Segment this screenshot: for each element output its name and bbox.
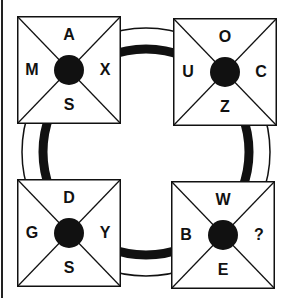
letter-top: D — [59, 189, 79, 207]
letter-right: X — [95, 61, 115, 79]
puzzle-box-bottom-left: D G Y S — [17, 179, 121, 287]
letter-bottom: E — [213, 261, 233, 279]
letter-top: W — [213, 191, 233, 209]
letter-top: O — [215, 28, 235, 46]
letter-top: A — [59, 26, 79, 44]
puzzle-box-bottom-right: W B ? E — [171, 181, 275, 289]
letter-left: U — [178, 63, 198, 81]
letter-left: G — [22, 224, 42, 242]
puzzle-box-top-left: A M X S — [17, 16, 121, 124]
center-dot-icon — [210, 57, 240, 87]
letter-bottom: S — [59, 259, 79, 277]
center-dot-icon — [54, 55, 84, 85]
letter-right: C — [251, 63, 271, 81]
puzzle-box-top-right: O U C Z — [173, 18, 277, 126]
center-dot-icon — [208, 220, 238, 250]
letter-bottom: S — [59, 96, 79, 114]
center-dot-icon — [54, 218, 84, 248]
letter-right: ? — [249, 226, 269, 244]
letter-bottom: Z — [215, 98, 235, 116]
letter-left: M — [22, 61, 42, 79]
letter-left: B — [176, 226, 196, 244]
letter-right: Y — [95, 224, 115, 242]
